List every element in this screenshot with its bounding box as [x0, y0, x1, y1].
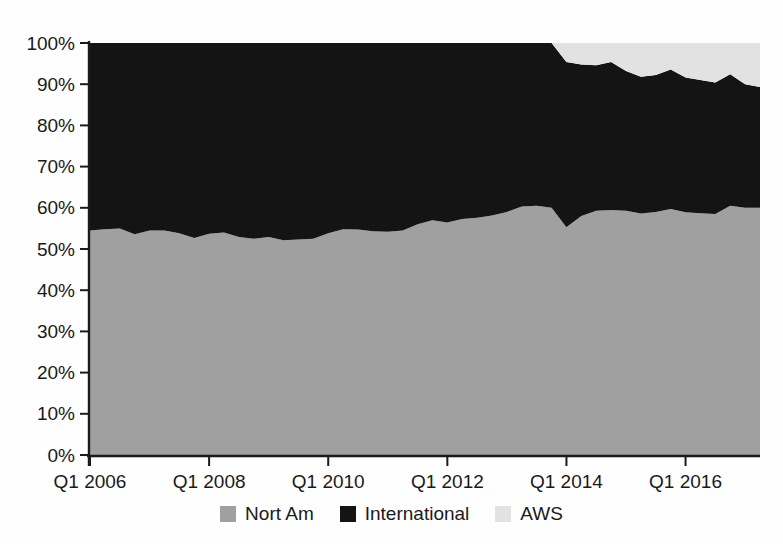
y-tick-label: 30%	[37, 321, 75, 342]
y-tick-label: 60%	[37, 197, 75, 218]
y-tick-label: 70%	[37, 156, 75, 177]
stacked-area-chart: 0%10%20%30%40%50%60%70%80%90%100%Q1 2006…	[0, 0, 783, 500]
y-tick-label: 50%	[37, 239, 75, 260]
legend-item-aws: AWS	[495, 503, 563, 525]
y-tick-label: 90%	[37, 74, 75, 95]
legend-item-nort-am: Nort Am	[220, 503, 314, 525]
x-tick-label: Q1 2016	[649, 471, 722, 492]
y-tick-label: 80%	[37, 115, 75, 136]
legend-swatch-nort-am-icon	[220, 506, 236, 522]
y-tick-label: 20%	[37, 362, 75, 383]
x-tick-label: Q1 2014	[530, 471, 603, 492]
area-nort-am	[90, 206, 760, 455]
y-tick-label: 40%	[37, 280, 75, 301]
legend-swatch-international-icon	[340, 506, 356, 522]
x-tick-label: Q1 2006	[54, 471, 127, 492]
chart-figure: 0%10%20%30%40%50%60%70%80%90%100%Q1 2006…	[0, 0, 783, 544]
legend-item-international: International	[340, 503, 470, 525]
y-tick-label: 100%	[26, 33, 75, 54]
x-tick-label: Q1 2010	[292, 471, 365, 492]
legend-label-international: International	[365, 503, 470, 525]
legend-swatch-aws-icon	[495, 506, 511, 522]
x-tick-label: Q1 2008	[173, 471, 246, 492]
y-tick-label: 0%	[48, 445, 76, 466]
y-tick-label: 10%	[37, 403, 75, 424]
legend-label-nort-am: Nort Am	[245, 503, 314, 525]
chart-legend: Nort Am International AWS	[0, 503, 783, 525]
x-tick-label: Q1 2012	[411, 471, 484, 492]
legend-label-aws: AWS	[520, 503, 563, 525]
